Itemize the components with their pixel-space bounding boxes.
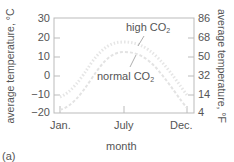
x-tick-dec: Dec. (170, 120, 193, 131)
annotation-high-co2: high CO2 (126, 22, 170, 34)
y-tick-20: 20 (26, 32, 50, 43)
y-axis-label-left: average temperature, °C (4, 4, 16, 128)
y-tick-neg10: −10 (20, 89, 50, 100)
x-axis-label: month (106, 141, 137, 152)
y-tick-0: 0 (26, 70, 50, 81)
f-tick-32: 32 (198, 70, 210, 81)
y-axis-label-right: average temperature, °F (216, 4, 228, 128)
x-tick-jan: Jan. (50, 120, 71, 131)
f-tick-14: 14 (198, 89, 210, 100)
x-tick-july: July (114, 120, 134, 131)
y-tick-30: 30 (26, 13, 50, 24)
f-tick-50: 50 (198, 51, 210, 62)
high-co2-leader (138, 36, 144, 46)
f-tick-4: 4 (198, 107, 204, 118)
normal-co2-leader (130, 55, 136, 67)
y-tick-10: 10 (26, 51, 50, 62)
f-tick-68: 68 (198, 32, 210, 43)
plot-frame (54, 18, 194, 113)
annotation-normal-co2: normal CO2 (97, 71, 154, 83)
panel-label: (a) (2, 151, 15, 162)
y-tick-neg20: −20 (20, 107, 50, 118)
f-tick-86: 86 (198, 13, 210, 24)
